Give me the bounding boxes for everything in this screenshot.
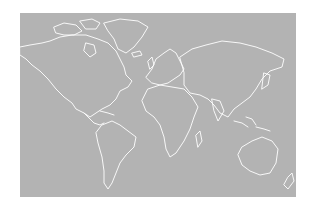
southeast-asia-islands-outline — [234, 117, 270, 131]
australia-outline — [238, 137, 278, 175]
south-america-outline — [96, 121, 136, 189]
new-zealand-outline — [284, 173, 294, 189]
greenland-outline — [104, 19, 148, 53]
africa-outline — [142, 85, 198, 157]
world-map — [20, 13, 296, 197]
asia-outline — [180, 41, 284, 117]
central-america-outline — [84, 111, 114, 125]
arctic-islands-outline — [54, 19, 100, 57]
iceland-outline — [132, 51, 142, 57]
madagascar-outline — [196, 131, 202, 147]
coastlines — [20, 13, 296, 197]
north-america-outline — [20, 35, 132, 117]
